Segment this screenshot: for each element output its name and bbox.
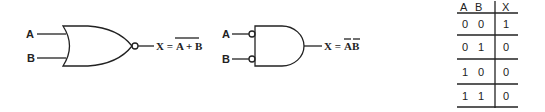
- and-output-expr-b: B: [352, 40, 360, 52]
- nor-gate-body: [63, 26, 132, 66]
- table-header-a: A: [460, 1, 468, 13]
- nor-input-a-label: A: [26, 28, 34, 40]
- table-cell: 0: [478, 66, 484, 78]
- table-cell: 1: [462, 66, 468, 78]
- nor-output-expression: A + B: [176, 40, 203, 52]
- and-input-b-bubble: [249, 56, 255, 62]
- logic-diagram: A B X = A + B A B X = A B A B X 0 0: [0, 0, 545, 112]
- nor-gate: A B X = A + B: [26, 26, 203, 66]
- and-input-a-label: A: [222, 28, 230, 40]
- table-cell: 1: [462, 90, 468, 102]
- table-header-x: X: [502, 1, 510, 13]
- table-cell: 1: [478, 41, 484, 53]
- and-gate-inverted-inputs: A B X = A B: [222, 26, 360, 66]
- and-input-b-label: B: [222, 53, 230, 65]
- table-header-b: B: [475, 1, 482, 13]
- table-cell: 1: [478, 90, 484, 102]
- table-cell: 0: [478, 18, 484, 30]
- nor-input-b-label: B: [27, 52, 35, 64]
- nor-output-lhs: X =: [156, 40, 173, 52]
- table-row: 0 1 0: [462, 41, 509, 53]
- table-cell: 1: [503, 18, 509, 30]
- and-output-lhs: X =: [324, 40, 341, 52]
- and-output-expr-a: A: [344, 40, 352, 52]
- table-row: 1 0 0: [462, 66, 509, 78]
- nor-output-bubble: [132, 43, 138, 49]
- table-cell: 0: [503, 90, 509, 102]
- table-cell: 0: [503, 41, 509, 53]
- table-cell: 0: [462, 41, 468, 53]
- table-cell: 0: [503, 66, 509, 78]
- table-row: 1 1 0: [462, 90, 509, 102]
- truth-table: A B X 0 0 1 0 1 0 1 0 0 1 1 0: [457, 1, 518, 108]
- and-gate-body: [255, 26, 304, 66]
- and-input-a-bubble: [249, 31, 255, 37]
- table-cell: 0: [462, 18, 468, 30]
- table-row: 0 0 1: [462, 18, 509, 30]
